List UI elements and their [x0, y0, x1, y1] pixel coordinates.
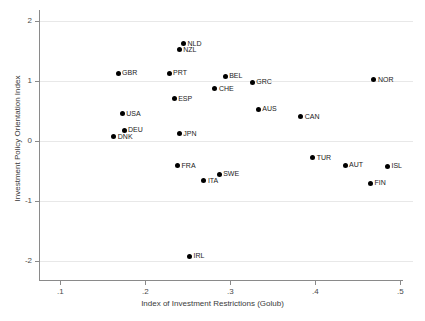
y-tick-label: 2 — [6, 16, 32, 25]
gridline-y — [39, 201, 413, 202]
x-tick-label: .5 — [388, 287, 412, 296]
data-point-label: BEL — [229, 72, 242, 80]
data-point[interactable] — [368, 181, 373, 186]
gridline-y — [39, 141, 413, 142]
scatter-plot-figure: NLDNZLGBRPRTBELNORGRCCHEESPAUSUSACANDEUJ… — [0, 0, 425, 321]
data-point[interactable] — [120, 111, 125, 116]
y-tick-mark — [35, 201, 39, 202]
data-point-label: FIN — [375, 179, 386, 187]
data-point-label: SWE — [223, 170, 239, 178]
x-tick-mark — [315, 281, 316, 285]
y-axis-line — [39, 10, 40, 281]
data-point[interactable] — [175, 163, 180, 168]
data-point-label: TUR — [317, 154, 331, 162]
data-point-label: IRL — [193, 252, 204, 260]
data-point-label: GRC — [256, 78, 272, 86]
data-point-label: JPN — [183, 130, 196, 138]
x-tick-label: .1 — [48, 287, 72, 296]
data-point-label: CHE — [219, 85, 234, 93]
gridline-y — [39, 261, 413, 262]
plot-area: NLDNZLGBRPRTBELNORGRCCHEESPAUSUSACANDEUJ… — [39, 10, 413, 278]
data-point[interactable] — [187, 254, 192, 259]
data-point[interactable] — [116, 71, 121, 76]
x-tick-mark — [145, 281, 146, 285]
x-tick-mark — [400, 281, 401, 285]
y-tick-mark — [35, 81, 39, 82]
data-point-label: ITA — [208, 177, 218, 185]
data-point[interactable] — [172, 96, 177, 101]
gridline-y — [39, 81, 413, 82]
data-point[interactable] — [212, 86, 217, 91]
data-point[interactable] — [201, 178, 206, 183]
y-tick-mark — [35, 141, 39, 142]
x-tick-label: .3 — [218, 287, 242, 296]
data-point-label: NOR — [378, 76, 394, 84]
data-point-label: USA — [126, 110, 140, 118]
data-point-label: CAN — [305, 113, 320, 121]
x-tick-label: .2 — [133, 287, 157, 296]
data-point[interactable] — [223, 74, 228, 79]
data-point[interactable] — [250, 80, 255, 85]
data-point[interactable] — [310, 155, 315, 160]
x-axis-label: Index of Investment Restrictions (Golub) — [0, 299, 425, 308]
data-point-label: ISL — [392, 162, 403, 170]
y-axis-label: Investment Policy Orientation Index — [13, 29, 22, 249]
data-point-label: AUT — [349, 161, 363, 169]
data-point-label: ESP — [178, 95, 192, 103]
data-point-label: NZL — [183, 46, 196, 54]
data-point[interactable] — [177, 47, 182, 52]
x-axis-line — [39, 280, 403, 281]
data-point[interactable] — [343, 163, 348, 168]
data-point[interactable] — [298, 114, 303, 119]
data-point[interactable] — [385, 164, 390, 169]
x-tick-label: .4 — [303, 287, 327, 296]
y-tick-label: -2 — [6, 256, 32, 265]
x-tick-mark — [230, 281, 231, 285]
data-point-label: AUS — [262, 105, 276, 113]
data-point[interactable] — [111, 134, 116, 139]
data-point-label: FRA — [182, 162, 196, 170]
gridline-y — [39, 21, 413, 22]
data-point[interactable] — [256, 107, 261, 112]
data-point-label: PRT — [173, 69, 187, 77]
y-tick-mark — [35, 261, 39, 262]
y-tick-mark — [35, 21, 39, 22]
x-tick-mark — [60, 281, 61, 285]
data-point[interactable] — [167, 71, 172, 76]
data-point-label: GBR — [122, 69, 137, 77]
data-point-label: DNK — [118, 133, 133, 141]
data-point[interactable] — [177, 131, 182, 136]
